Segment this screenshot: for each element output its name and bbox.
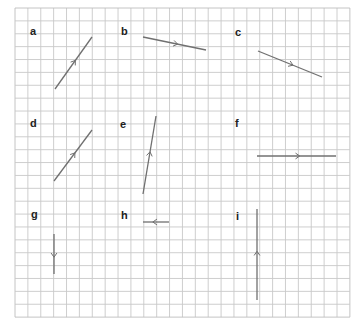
panel-label: i bbox=[236, 210, 239, 222]
panel-a: a bbox=[30, 25, 92, 89]
vector-segment bbox=[143, 37, 206, 50]
panel-i: i bbox=[236, 209, 260, 300]
panel-g: g bbox=[31, 208, 57, 274]
panel-h: h bbox=[121, 209, 169, 225]
vector-segment bbox=[143, 116, 156, 194]
panel-label: e bbox=[120, 118, 126, 130]
panel-label: f bbox=[235, 117, 239, 129]
panel-label: c bbox=[235, 26, 241, 38]
panel-label: g bbox=[31, 208, 38, 220]
vector-segment bbox=[54, 130, 92, 181]
panel-label: d bbox=[30, 117, 37, 129]
panel-label: b bbox=[121, 25, 128, 37]
panel-label: h bbox=[121, 209, 128, 221]
vector-segment bbox=[258, 51, 322, 77]
panel-e: e bbox=[120, 116, 156, 194]
vector-grid-figure: abcdefghi bbox=[0, 0, 360, 326]
vector-segment bbox=[55, 37, 92, 89]
panel-d: d bbox=[30, 117, 92, 181]
square-grid bbox=[15, 8, 350, 317]
panel-label: a bbox=[30, 25, 37, 37]
